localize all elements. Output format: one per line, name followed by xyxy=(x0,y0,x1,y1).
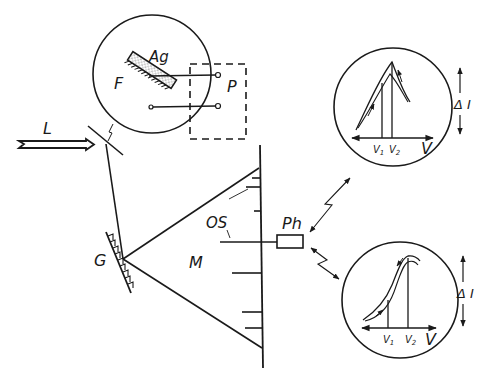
inset-top-curve-1 xyxy=(356,62,410,130)
signal-link-bottom xyxy=(311,248,339,279)
wire-bottom xyxy=(153,106,216,107)
signal-link-top xyxy=(310,178,350,232)
signal-links xyxy=(310,178,350,279)
terminal-bottom xyxy=(216,104,221,109)
inset-top-v2-label: V2 xyxy=(389,144,401,157)
inset-bottom: V1 V2 V Δ I xyxy=(342,242,474,358)
label-silver: Ag xyxy=(148,48,169,66)
inset-bottom-curve-1 xyxy=(363,256,420,320)
label-photomultiplier: Ph xyxy=(282,214,302,233)
label-grating: G xyxy=(94,251,106,270)
label-optical-slit: OS xyxy=(206,214,228,232)
label-potentiostat: P xyxy=(227,77,237,96)
inset-bottom-circle xyxy=(342,242,458,358)
inset-bottom-arrow-up xyxy=(376,310,383,316)
label-monochromator: M xyxy=(189,253,203,272)
inset-bottom-v1-label: V1 xyxy=(383,334,394,347)
inset-top-x-label: V xyxy=(421,139,433,158)
monochromator: M xyxy=(123,168,262,348)
beam-splitter xyxy=(88,126,123,155)
os-leader-tick xyxy=(227,230,230,238)
label-laser: L xyxy=(43,119,52,138)
inset-bottom-x-label: V xyxy=(425,330,437,349)
inset-top-v1-label: V1 xyxy=(373,144,384,157)
photomultiplier: Ph xyxy=(277,214,303,248)
laser-beam: L xyxy=(19,119,94,150)
electrochemical-cell: F Ag xyxy=(93,15,221,133)
photomultiplier-box xyxy=(277,235,303,248)
laser-arrow-icon xyxy=(19,139,94,150)
spectrum-plane-line xyxy=(260,145,263,368)
inset-top: V1 V2 V Δ I xyxy=(334,48,471,166)
os-leader-line xyxy=(229,189,248,199)
terminal-top xyxy=(216,73,221,78)
reflection-zigzag-icon xyxy=(108,124,113,141)
inset-bottom-y-label: Δ I xyxy=(456,286,474,301)
inset-bottom-v2-label: V2 xyxy=(405,334,417,347)
diagram-canvas: F Ag P L G M OS xyxy=(0,0,484,382)
counter-electrode xyxy=(149,105,153,109)
label-film: F xyxy=(114,74,124,93)
mono-upper-ray xyxy=(123,168,259,259)
inset-top-y-label: Δ I xyxy=(453,97,471,112)
